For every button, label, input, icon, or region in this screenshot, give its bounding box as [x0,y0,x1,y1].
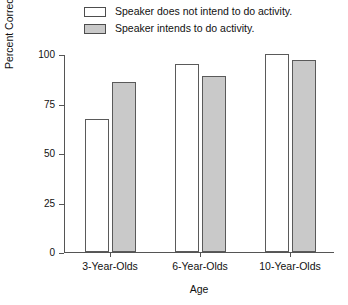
bar [112,82,136,252]
x-tick-label: 3-Year-Olds [65,260,156,272]
bar-group: 6-Year-Olds [175,55,226,252]
y-tick-75: 75 [59,105,64,106]
bar [175,64,199,252]
y-tick-0: 0 [59,253,64,254]
legend-item-no-intent: Speaker does not intend to do activity. [84,3,334,20]
x-tick [290,252,291,257]
y-tick-50: 50 [59,154,64,155]
bar-group: 10-Year-Olds [265,55,316,252]
legend-item-intent: Speaker intends to do activity. [84,20,334,37]
x-axis-title: Age [64,283,334,295]
bar [292,60,316,252]
bar [85,119,109,252]
plot-area: 0255075100 3-Year-Olds6-Year-Olds10-Year… [64,55,334,253]
x-tick [200,252,201,257]
y-tick-label-0: 0 [49,247,55,258]
y-axis-title: Percent Correct Choice of Scenario Outco… [2,0,16,69]
x-axis-line [64,252,334,253]
y-tick-label-25: 25 [44,198,55,209]
y-tick-label-75: 75 [44,99,55,110]
x-tick-label: 6-Year-Olds [155,260,246,272]
bar [265,54,289,252]
x-tick [110,252,111,257]
legend-swatch-gray-icon [84,24,106,34]
legend-label-no-intent: Speaker does not intend to do activity. [115,6,292,17]
bar-groups: 3-Year-Olds6-Year-Olds10-Year-Olds [65,55,334,252]
y-tick-label-50: 50 [44,148,55,159]
legend-label-intent: Speaker intends to do activity. [115,23,254,34]
y-tick-label-100: 100 [38,49,55,60]
legend-swatch-white-icon [84,7,106,17]
y-tick-100: 100 [59,55,64,56]
bar-group: 3-Year-Olds [85,55,136,252]
bar [202,76,226,252]
chart-legend: Speaker does not intend to do activity. … [84,3,334,37]
y-tick-25: 25 [59,204,64,205]
x-tick-label: 10-Year-Olds [245,260,336,272]
